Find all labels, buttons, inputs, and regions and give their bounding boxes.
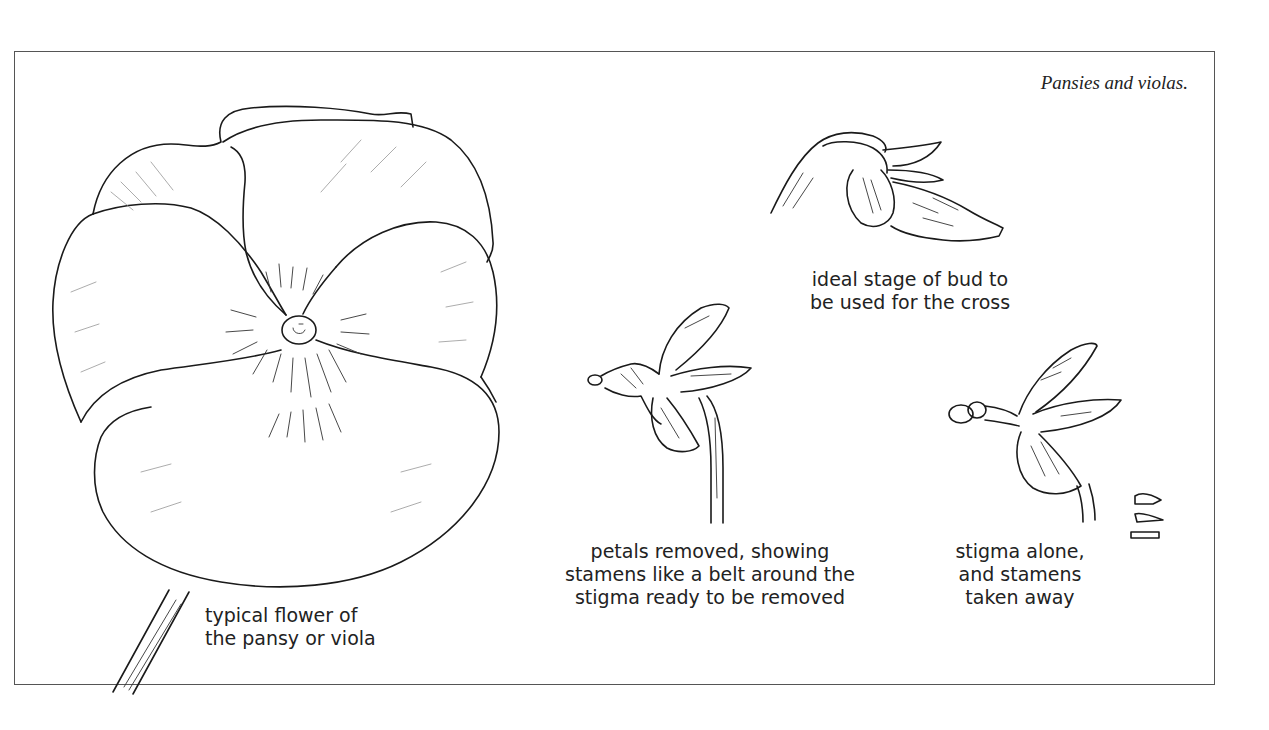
- bud-illustration: [763, 118, 1013, 248]
- caption-line: taken away: [925, 586, 1115, 609]
- figure-frame: Pansies and violas.: [14, 51, 1215, 685]
- stigma-alone-caption: stigma alone, and stamens taken away: [925, 540, 1115, 609]
- bud-caption: ideal stage of bud to be used for the cr…: [775, 268, 1045, 314]
- figure-title: Pansies and violas.: [1041, 72, 1188, 94]
- caption-line: stamens like a belt around the: [545, 563, 875, 586]
- pansy-flower-caption: typical flower of the pansy or viola: [205, 604, 376, 650]
- caption-line: petals removed, showing: [545, 540, 875, 563]
- caption-line: and stamens: [925, 563, 1115, 586]
- pansy-flower-illustration: [41, 92, 501, 692]
- petals-removed-caption: petals removed, showing stamens like a b…: [545, 540, 875, 609]
- caption-line: stigma alone,: [925, 540, 1115, 563]
- stigma-alone-illustration: [941, 336, 1181, 551]
- caption-line: ideal stage of bud to: [775, 268, 1045, 291]
- caption-line: typical flower of: [205, 604, 376, 627]
- caption-line: stigma ready to be removed: [545, 586, 875, 609]
- caption-line: be used for the cross: [775, 291, 1045, 314]
- petals-removed-illustration: [581, 298, 771, 528]
- caption-line: the pansy or viola: [205, 627, 376, 650]
